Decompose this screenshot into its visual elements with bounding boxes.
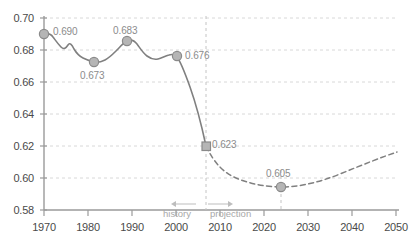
series-projection-line: [206, 146, 397, 187]
y-tick-label-0: 0.70: [0, 12, 34, 24]
history-annotation-label: history: [163, 208, 191, 219]
y-tick-label-2: 0.66: [0, 76, 34, 88]
data-point-2010: [202, 142, 211, 151]
data-label-2010: 0.623: [212, 139, 237, 150]
projection-annotation-label: projection: [210, 208, 251, 219]
x-tick-label-6: 2030: [288, 221, 328, 233]
y-tick-label-6: 0.58: [0, 204, 34, 216]
x-tick-label-3: 2000: [156, 221, 196, 233]
data-label-1970: 0.690: [53, 26, 78, 37]
data-point-markers: [39, 29, 285, 191]
x-tick-label-7: 2040: [332, 221, 372, 233]
x-tick-label-2: 1990: [112, 221, 152, 233]
data-point-2027: [276, 182, 285, 191]
data-point-1991: [122, 36, 131, 45]
x-tick-label-0: 1970: [24, 221, 64, 233]
data-point-2000: [172, 51, 181, 60]
y-tick-label-5: 0.60: [0, 172, 34, 184]
x-tick-label-1: 1980: [68, 221, 108, 233]
data-point-1970: [39, 29, 48, 38]
horizontal-gridlines: [44, 18, 397, 178]
projection-arrow-head: [228, 201, 233, 207]
y-tick-label-3: 0.64: [0, 108, 34, 120]
history-projection-arrows: [171, 201, 233, 207]
data-label-1983: 0.673: [80, 70, 105, 81]
data-label-1991: 0.683: [113, 25, 138, 36]
x-tick-label-4: 2010: [200, 221, 240, 233]
x-tick-label-5: 2020: [244, 221, 284, 233]
x-tick-label-8: 2050: [376, 221, 413, 233]
data-label-2027: 0.605: [266, 168, 291, 179]
history-arrow-head: [171, 201, 176, 207]
y-tick-label-1: 0.68: [0, 44, 34, 56]
data-point-1983: [89, 57, 98, 66]
data-label-2000: 0.676: [185, 50, 210, 61]
y-tick-label-4: 0.62: [0, 140, 34, 152]
